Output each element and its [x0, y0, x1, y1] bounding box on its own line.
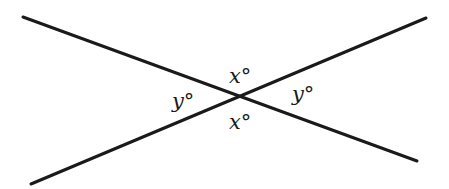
- lines-layer: [0, 0, 449, 189]
- angle-label-left: y°: [172, 91, 194, 112]
- line-1: [23, 17, 417, 161]
- angle-label-top: x°: [229, 66, 251, 87]
- angle-label-bottom: x°: [229, 112, 251, 133]
- vertical-angles-diagram: x° x° y° y°: [0, 0, 449, 189]
- angle-label-right: y°: [292, 84, 314, 105]
